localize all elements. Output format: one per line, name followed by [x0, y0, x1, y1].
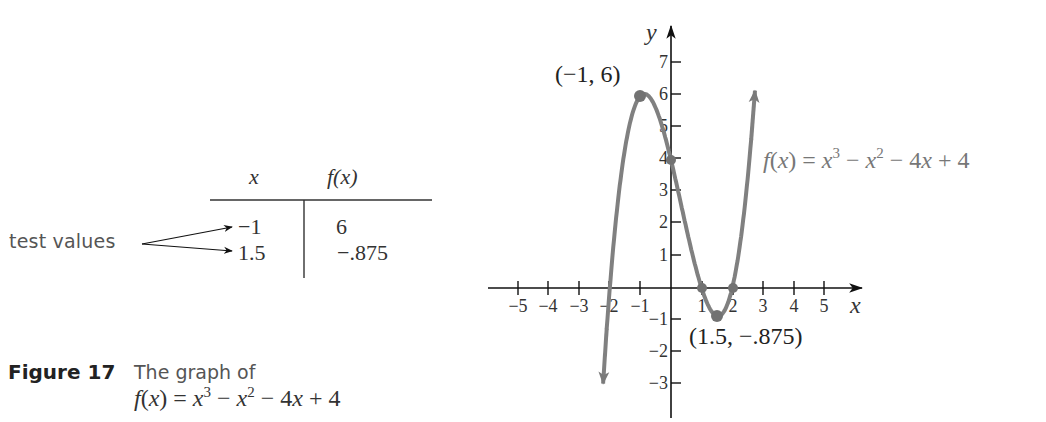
- x-tick-label: −4: [538, 296, 557, 316]
- y-tick-label: 1: [659, 245, 668, 265]
- y-tick-label: −1: [649, 309, 668, 329]
- x-tick-label: −3: [569, 296, 588, 316]
- function-label: f(x) = x3 − x2 − 4x + 4: [763, 145, 969, 173]
- min-point-marker: [711, 310, 723, 322]
- graph-axes: −5 −4 −3 −2 −1 1 2 3 4 5 −3 −2 −1 1 2 3 …: [488, 19, 862, 418]
- figure-caption-equation: f(x) = x3 − x2 − 4x + 4: [134, 384, 340, 412]
- y-tick-label: 3: [659, 180, 668, 200]
- y-tick-label: 7: [659, 52, 668, 72]
- curve-down-arrow-icon: [603, 329, 607, 384]
- x-tick-label: 4: [790, 296, 799, 316]
- x-tick-label: −5: [508, 296, 527, 316]
- figure-canvas: −5 −4 −3 −2 −1 1 2 3 4 5 −3 −2 −1 1 2 3 …: [0, 0, 1046, 422]
- arrow-icon: [142, 227, 232, 244]
- y-tick-label: 6: [659, 84, 668, 104]
- x-intercept-marker: [728, 283, 738, 293]
- y-tick-label: −2: [649, 341, 668, 361]
- y-intercept-marker: [666, 155, 676, 165]
- max-point-marker: [634, 90, 646, 102]
- curve-up-arrow-icon: [751, 91, 755, 140]
- figure-number: Figure 17: [8, 360, 115, 384]
- min-point-label: (1.5, −.875): [689, 323, 803, 349]
- y-tick-label: 2: [659, 212, 668, 232]
- x-tick-label: 3: [759, 296, 768, 316]
- y-tick-label: −3: [649, 373, 668, 393]
- x-tick-label: −1: [630, 296, 649, 316]
- x-tick-label: 5: [820, 296, 829, 316]
- x-tick-labels: −5 −4 −3 −2 −1 1 2 3 4 5: [508, 296, 828, 316]
- y-axis-label: y: [644, 19, 657, 45]
- arrow-icon: [142, 244, 232, 251]
- test-values-arrows: [142, 227, 232, 251]
- y-axis-ticks: [671, 62, 681, 383]
- max-point-label: (−1, 6): [555, 61, 621, 87]
- figure-caption-text: The graph of: [134, 361, 255, 383]
- x-axis-label: x: [849, 292, 861, 318]
- curve-line: [607, 94, 752, 329]
- x-intercept-marker: [697, 283, 707, 293]
